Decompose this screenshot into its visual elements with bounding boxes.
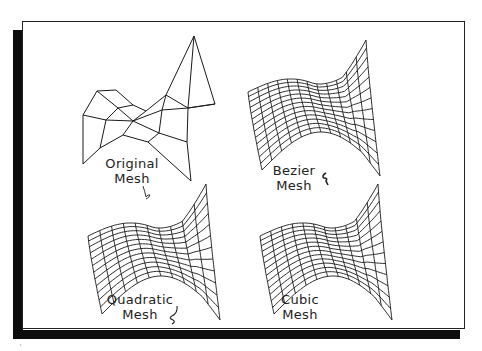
quadratic-label-line2: Mesh — [100, 307, 180, 322]
bezier-squiggle-icon — [323, 173, 328, 185]
mesh-figure — [0, 0, 482, 351]
bezier-label-line1: Bezier — [266, 163, 322, 178]
corner-speck — [20, 344, 21, 346]
cubic-label-line1: Cubic — [275, 292, 325, 307]
bezier-label-line2: Mesh — [266, 178, 322, 193]
original-mesh-label: Original Mesh — [97, 156, 167, 186]
quadratic-mesh-label: Quadratic Mesh — [100, 292, 180, 322]
original-label-line1: Original — [97, 156, 167, 171]
cubic-label-line2: Mesh — [275, 307, 325, 322]
quadratic-label-line1: Quadratic — [100, 292, 180, 307]
original-label-line2: Mesh — [97, 171, 167, 186]
bezier-mesh-label: Bezier Mesh — [266, 163, 322, 193]
original-squiggle-icon — [143, 186, 150, 199]
cubic-mesh-label: Cubic Mesh — [275, 292, 325, 322]
bezier-mesh-drawing — [248, 40, 380, 176]
